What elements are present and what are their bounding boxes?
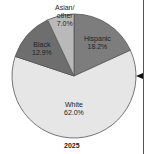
label-asian-other: Asian/ other 7.0% [55, 4, 74, 28]
label-hispanic: Hispanic 18.2% [84, 35, 111, 51]
label-white: White 62.0% [64, 101, 84, 117]
label-other-name: other [55, 12, 74, 20]
label-white-name: White [64, 101, 84, 109]
label-hispanic-name: Hispanic [84, 35, 111, 43]
arrow-left-icon [136, 73, 143, 79]
label-asian-pct: 7.0% [55, 20, 74, 28]
label-black-pct: 12.9% [32, 49, 52, 57]
label-asian-name: Asian/ [55, 4, 74, 12]
chart-year-label: 2025 [64, 142, 80, 149]
label-hispanic-pct: 18.2% [84, 43, 111, 51]
label-white-pct: 62.0% [64, 109, 84, 117]
pie-chart [0, 0, 151, 154]
label-black-name: Black [32, 41, 52, 49]
divider-line [143, 0, 144, 154]
label-black: Black 12.9% [32, 41, 52, 57]
